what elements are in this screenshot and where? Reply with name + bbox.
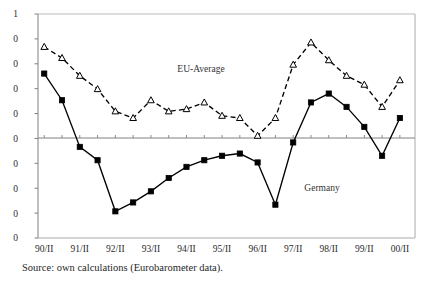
data-point-marker bbox=[272, 115, 279, 121]
data-point-marker bbox=[308, 100, 313, 105]
data-point-marker bbox=[41, 43, 48, 49]
data-point-marker bbox=[308, 39, 315, 45]
data-point-marker bbox=[273, 202, 278, 207]
x-tick-label: 91/II bbox=[71, 244, 89, 254]
data-point-marker bbox=[184, 164, 189, 169]
x-tick-label: 94/II bbox=[177, 244, 195, 254]
y-axis-tick-labels: 1000000000 bbox=[13, 9, 18, 243]
y-tick-label: 0 bbox=[13, 233, 18, 243]
data-point-marker bbox=[202, 158, 207, 163]
axis-tick-marks bbox=[35, 14, 400, 238]
x-tick-label: 93/II bbox=[142, 244, 160, 254]
series-line bbox=[44, 74, 400, 212]
x-tick-label: 98/II bbox=[320, 244, 338, 254]
data-point-marker bbox=[95, 158, 100, 163]
germany-annotation: Germany bbox=[304, 183, 340, 193]
eu-average-annotation: EU-Average bbox=[177, 64, 224, 74]
data-point-marker bbox=[77, 144, 82, 149]
data-point-marker bbox=[344, 104, 349, 109]
data-point-marker bbox=[59, 55, 66, 61]
axis-lines bbox=[38, 14, 415, 238]
data-point-marker bbox=[255, 160, 260, 165]
y-tick-label: 0 bbox=[13, 109, 18, 119]
data-point-marker bbox=[397, 77, 404, 83]
data-point-marker bbox=[237, 151, 242, 156]
data-point-marker bbox=[148, 189, 153, 194]
x-tick-label: 95/II bbox=[213, 244, 231, 254]
data-point-marker bbox=[219, 153, 224, 158]
data-point-marker bbox=[254, 132, 261, 138]
y-tick-label: 0 bbox=[13, 84, 18, 94]
y-tick-label: 0 bbox=[13, 159, 18, 169]
data-point-marker bbox=[326, 91, 331, 96]
x-tick-label: 97/II bbox=[284, 244, 302, 254]
data-point-marker bbox=[201, 99, 208, 105]
data-point-marker bbox=[131, 200, 136, 205]
y-tick-label: 0 bbox=[13, 134, 18, 144]
data-point-marker bbox=[361, 81, 368, 87]
data-point-marker bbox=[237, 115, 244, 121]
series-eu-average bbox=[41, 39, 403, 138]
x-tick-label: 96/II bbox=[248, 244, 266, 254]
chart-canvas: 1000000000 90/II91/II92/II93/II94/II95/I… bbox=[0, 0, 434, 287]
data-point-marker bbox=[42, 71, 47, 76]
y-tick-label: 0 bbox=[13, 209, 18, 219]
x-tick-label: 92/II bbox=[106, 244, 124, 254]
x-tick-label: 99/II bbox=[355, 244, 373, 254]
source-caption: Source: own calculations (Eurobarometer … bbox=[22, 262, 223, 273]
data-point-marker bbox=[148, 97, 155, 103]
y-tick-label: 0 bbox=[13, 184, 18, 194]
data-point-marker bbox=[291, 140, 296, 145]
chart-figure: 1000000000 90/II91/II92/II93/II94/II95/I… bbox=[0, 0, 434, 287]
x-tick-label: 00/II bbox=[391, 244, 409, 254]
y-tick-label: 0 bbox=[13, 34, 18, 44]
data-point-marker bbox=[397, 115, 402, 120]
data-point-marker bbox=[59, 98, 64, 103]
x-axis-tick-labels: 90/II91/II92/II93/II94/II95/II96/II97/II… bbox=[35, 244, 409, 254]
data-point-marker bbox=[380, 153, 385, 158]
data-point-marker bbox=[113, 209, 118, 214]
y-tick-label: 1 bbox=[13, 9, 18, 19]
data-point-marker bbox=[166, 175, 171, 180]
series-germany bbox=[42, 71, 403, 214]
data-point-marker bbox=[94, 86, 101, 92]
data-point-marker bbox=[362, 124, 367, 129]
data-point-marker bbox=[219, 112, 226, 118]
x-tick-label: 90/II bbox=[35, 244, 53, 254]
y-tick-label: 0 bbox=[13, 59, 18, 69]
